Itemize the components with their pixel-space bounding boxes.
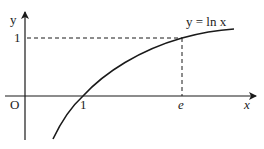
x-tick-e: e [178, 97, 184, 112]
y-tick-one: 1 [14, 30, 21, 45]
x-axis-label: x [243, 97, 250, 112]
ln-curve [53, 29, 234, 139]
ln-graph: y 1 O 1 e x y = ln x [0, 0, 264, 149]
x-tick-one: 1 [80, 97, 87, 112]
y-axis-label: y [10, 12, 17, 27]
curve-label: y = ln x [186, 14, 227, 29]
origin-label: O [10, 97, 19, 112]
